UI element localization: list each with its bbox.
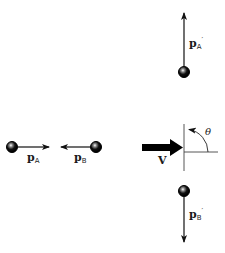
angle-reference: θ xyxy=(184,124,218,171)
ball-a-prime-icon xyxy=(179,67,190,78)
particle-a-after: pA′ xyxy=(179,13,204,78)
ball-a-icon xyxy=(7,142,18,153)
collision-diagram: pA pB V θ pA′ pB′ xyxy=(0,0,225,253)
label-v: V xyxy=(157,154,167,167)
particle-a-before: pA xyxy=(7,142,50,166)
label-pb: pB xyxy=(74,151,87,165)
label-pa-prime: pA′ xyxy=(189,36,204,51)
ball-b-icon xyxy=(91,142,102,153)
particle-b-after: pB′ xyxy=(179,186,204,243)
ball-b-prime-icon xyxy=(179,186,190,197)
label-pa: pA xyxy=(27,151,40,165)
label-pb-prime: pB′ xyxy=(189,207,204,222)
velocity-arrow: V xyxy=(142,139,183,167)
label-theta: θ xyxy=(205,126,211,137)
particle-b-before: pB xyxy=(61,142,102,166)
